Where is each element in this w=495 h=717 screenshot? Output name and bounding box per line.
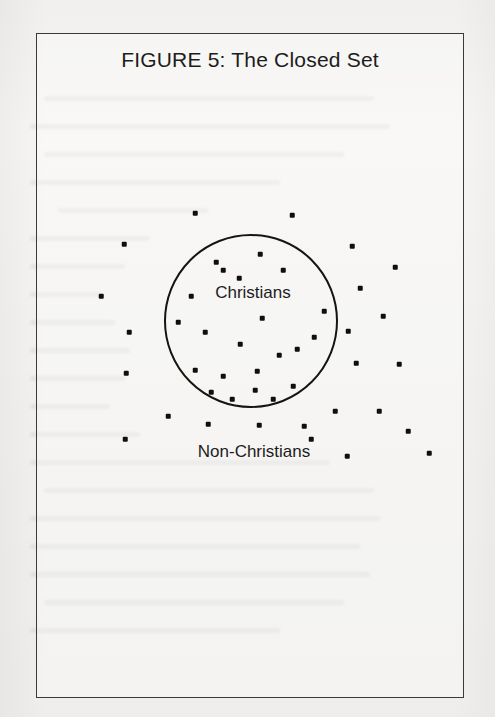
data-point-dot bbox=[260, 316, 265, 321]
data-point-dot bbox=[189, 294, 194, 299]
data-point-dot bbox=[290, 213, 295, 218]
data-point-dot bbox=[166, 414, 171, 419]
label-christians: Christians bbox=[215, 283, 291, 303]
data-point-dot bbox=[123, 437, 128, 442]
data-point-dot bbox=[354, 361, 359, 366]
set-boundary-circle bbox=[164, 234, 338, 408]
label-non-christians: Non-Christians bbox=[198, 442, 310, 462]
scanned-page: FIGURE 5: The Closed Set Christians Non-… bbox=[0, 0, 495, 717]
data-point-dot bbox=[381, 314, 386, 319]
data-point-dot bbox=[358, 286, 363, 291]
data-point-dot bbox=[230, 397, 235, 402]
closed-set-diagram: Christians Non-Christians bbox=[37, 34, 465, 699]
data-point-dot bbox=[176, 320, 181, 325]
data-point-dot bbox=[393, 265, 398, 270]
data-point-dot bbox=[206, 422, 211, 427]
figure-frame: FIGURE 5: The Closed Set Christians Non-… bbox=[36, 33, 464, 698]
data-point-dot bbox=[237, 276, 242, 281]
data-point-dot bbox=[124, 371, 129, 376]
data-point-dot bbox=[203, 330, 208, 335]
data-point-dot bbox=[295, 347, 300, 352]
data-point-dot bbox=[377, 409, 382, 414]
data-point-dot bbox=[291, 384, 296, 389]
data-point-dot bbox=[193, 368, 198, 373]
data-point-dot bbox=[258, 252, 263, 257]
data-point-dot bbox=[99, 294, 104, 299]
data-point-dot bbox=[346, 329, 351, 334]
data-point-dot bbox=[257, 423, 262, 428]
data-point-dot bbox=[127, 330, 132, 335]
data-point-dot bbox=[221, 268, 226, 273]
data-point-dot bbox=[209, 390, 214, 395]
data-point-dot bbox=[122, 242, 127, 247]
data-point-dot bbox=[271, 397, 276, 402]
data-point-dot bbox=[397, 362, 402, 367]
data-point-dot bbox=[406, 429, 411, 434]
data-point-dot bbox=[302, 424, 307, 429]
data-point-dot bbox=[281, 268, 286, 273]
data-point-dot bbox=[427, 451, 432, 456]
data-point-dot bbox=[253, 388, 258, 393]
data-point-dot bbox=[350, 244, 355, 249]
data-point-dot bbox=[333, 409, 338, 414]
data-point-dot bbox=[255, 369, 260, 374]
data-point-dot bbox=[214, 260, 219, 265]
data-point-dot bbox=[309, 437, 314, 442]
data-point-dot bbox=[345, 454, 350, 459]
data-point-dot bbox=[238, 342, 243, 347]
data-point-dot bbox=[221, 374, 226, 379]
data-point-dot bbox=[312, 335, 317, 340]
data-point-dot bbox=[322, 309, 327, 314]
data-point-dot bbox=[277, 353, 282, 358]
data-point-dot bbox=[193, 211, 198, 216]
